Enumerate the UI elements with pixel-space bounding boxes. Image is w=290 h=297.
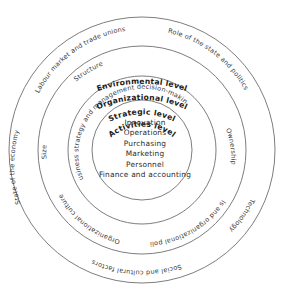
factor-business-strategy-and-management-decision-making: Business strategy and management decisio… (0, 0, 189, 181)
factor-ownership: Ownership (224, 127, 237, 165)
factor-size: Size (40, 145, 48, 160)
factor-state-of-the-economy: State of the economy (8, 129, 22, 206)
ring-heading-activities: Activities level (107, 119, 178, 139)
factor-social-and-cultural-factors: Social and cultural factors (90, 258, 183, 277)
factor-organizational-culture: Organizational culture (57, 193, 121, 246)
organizational-context-diagram: Environmental level Organizational level… (0, 0, 290, 297)
factor-structure: Structure (72, 60, 104, 84)
rings-svg: Environmental level Organizational level… (0, 0, 290, 297)
